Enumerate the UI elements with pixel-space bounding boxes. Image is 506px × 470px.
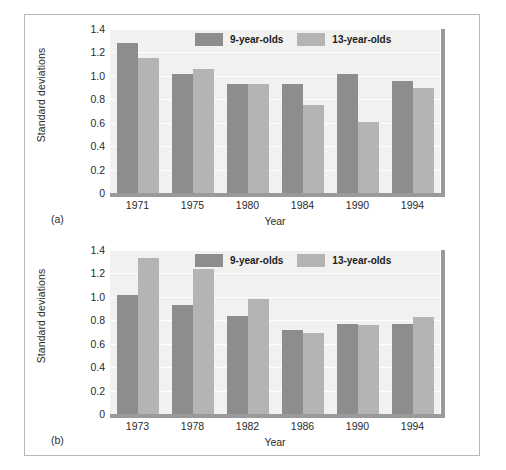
legend-item: 13-year-olds <box>297 33 391 46</box>
right-spine <box>441 250 445 418</box>
bar <box>193 269 214 414</box>
right-spine <box>441 29 445 197</box>
bar-group <box>110 29 165 193</box>
y-tick-label: 0.6 <box>90 338 105 350</box>
legend-item: 9-year-olds <box>195 254 283 267</box>
y-tick-label: 1.0 <box>90 291 105 303</box>
legend: 9-year-olds13-year-olds <box>195 254 391 267</box>
y-axis-ticks: 1.41.21.00.80.60.40.20 <box>73 250 105 414</box>
plot-area <box>110 29 440 193</box>
bar-group <box>220 250 275 414</box>
bar <box>413 317 434 414</box>
bar <box>282 330 303 414</box>
x-axis-title: Year <box>110 436 440 448</box>
y-tick-label: 0.8 <box>90 314 105 326</box>
y-tick-label: 0.2 <box>90 385 105 397</box>
bar <box>138 58 159 193</box>
x-axis-line <box>110 414 445 418</box>
chart-panel-a: Standard deviations 1.41.21.00.80.60.40.… <box>25 15 481 236</box>
legend-label: 9-year-olds <box>230 34 283 45</box>
x-axis-ticks: 197319781982198619901994 <box>110 420 440 432</box>
x-tick-label: 1980 <box>220 199 275 211</box>
x-tick-label: 1990 <box>330 199 385 211</box>
chart-panel-b: Standard deviations 1.41.21.00.80.60.40.… <box>25 236 481 457</box>
legend-swatch <box>297 33 325 46</box>
x-tick-label: 1994 <box>385 420 440 432</box>
y-axis-ticks: 1.41.21.00.80.60.40.20 <box>73 29 105 193</box>
y-tick-label: 1.0 <box>90 70 105 82</box>
bar <box>392 81 413 193</box>
legend-item: 13-year-olds <box>297 254 391 267</box>
x-tick-label: 1986 <box>275 420 330 432</box>
x-tick-label: 1990 <box>330 420 385 432</box>
x-tick-label: 1984 <box>275 199 330 211</box>
x-tick-label: 1982 <box>220 420 275 432</box>
x-tick-label: 1994 <box>385 199 440 211</box>
y-tick-label: 1.4 <box>90 244 105 256</box>
bar <box>227 84 248 193</box>
y-axis-title: Standard deviations <box>35 35 47 155</box>
bar <box>282 84 303 193</box>
bar <box>248 299 269 414</box>
y-tick-label: 0.4 <box>90 361 105 373</box>
legend-swatch <box>297 254 325 267</box>
legend-label: 9-year-olds <box>230 255 283 266</box>
bar-group <box>385 250 440 414</box>
y-tick-label: 1.2 <box>90 267 105 279</box>
bar <box>227 316 248 414</box>
bar-group <box>275 29 330 193</box>
bar-group <box>220 29 275 193</box>
bar-groups <box>110 29 440 193</box>
bar-group <box>275 250 330 414</box>
bar <box>172 305 193 414</box>
legend-label: 13-year-olds <box>332 255 391 266</box>
bar-group <box>110 250 165 414</box>
x-tick-label: 1975 <box>165 199 220 211</box>
bar <box>117 295 138 414</box>
bar <box>172 74 193 193</box>
y-tick-label: 1.2 <box>90 46 105 58</box>
y-axis-title: Standard deviations <box>35 256 47 376</box>
y-tick-label: 1.4 <box>90 23 105 35</box>
y-tick-label: 0.6 <box>90 117 105 129</box>
x-tick-label: 1978 <box>165 420 220 432</box>
bar <box>117 43 138 193</box>
bar-groups <box>110 250 440 414</box>
bar-group <box>385 29 440 193</box>
x-axis-title: Year <box>110 215 440 227</box>
bar-group <box>330 29 385 193</box>
bar <box>337 324 358 414</box>
panel-tag-b: (b) <box>51 434 64 446</box>
bar <box>358 122 379 193</box>
figure-frame: Standard deviations 1.41.21.00.80.60.40.… <box>24 14 480 456</box>
y-tick-label: 0.2 <box>90 164 105 176</box>
x-tick-label: 1971 <box>110 199 165 211</box>
bar-group <box>330 250 385 414</box>
x-tick-label: 1973 <box>110 420 165 432</box>
bar <box>303 333 324 414</box>
y-tick-label: 0 <box>99 408 105 420</box>
legend-swatch <box>195 254 223 267</box>
legend-swatch <box>195 33 223 46</box>
panel-tag-a: (a) <box>51 213 64 225</box>
bar <box>303 105 324 193</box>
y-tick-label: 0 <box>99 187 105 199</box>
bar <box>392 324 413 414</box>
x-axis-line <box>110 193 445 197</box>
legend-label: 13-year-olds <box>332 34 391 45</box>
legend: 9-year-olds13-year-olds <box>195 33 391 46</box>
x-axis-ticks: 197119751980198419901994 <box>110 199 440 211</box>
bar <box>138 258 159 414</box>
bar <box>413 88 434 193</box>
plot-area <box>110 250 440 414</box>
y-tick-label: 0.4 <box>90 140 105 152</box>
bar <box>248 84 269 193</box>
bar <box>358 325 379 414</box>
bar-group <box>165 250 220 414</box>
bar <box>193 69 214 193</box>
y-tick-label: 0.8 <box>90 93 105 105</box>
bar-group <box>165 29 220 193</box>
bar <box>337 74 358 193</box>
legend-item: 9-year-olds <box>195 33 283 46</box>
